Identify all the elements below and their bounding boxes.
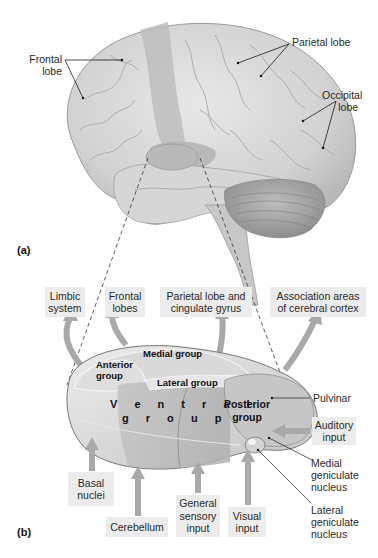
panel-a-label: (a) — [17, 244, 30, 256]
auditory-line2: input — [315, 431, 354, 444]
input-general-sensory: Generalsensoryinput — [176, 495, 220, 537]
auditory-line1: Auditory — [315, 419, 354, 432]
limbic-line2: system — [48, 302, 81, 315]
lgn-line1: Lateral — [311, 504, 359, 516]
pulvinar-label: Pulvinar — [313, 392, 351, 404]
output-frontal-lobes: Frontallobes — [105, 287, 145, 317]
lgn-line2: geniculate — [311, 516, 359, 528]
cerebellum-line1: Cerebellum — [110, 521, 164, 534]
general-line2: sensory — [179, 510, 216, 523]
anterior-line2: group — [96, 371, 133, 382]
occipital-lobe-line2: lobe — [322, 101, 362, 113]
output-limbic-system: Limbicsystem — [45, 287, 85, 317]
output-association-areas: Association areasof cerebral cortex — [270, 287, 366, 317]
association-line2: of cerebral cortex — [277, 302, 360, 315]
parietal-cingulate-line1: Parietal lobe and — [167, 290, 246, 303]
input-cerebellum: Cerebellum — [106, 517, 168, 537]
basal-line2: nuclei — [77, 489, 104, 502]
frontal-lobes-line1: Frontal — [109, 290, 142, 303]
association-line1: Association areas — [277, 290, 360, 303]
mgn-line3: nucleus — [311, 481, 359, 493]
posterior-line2: group — [217, 411, 277, 424]
occipital-lobe-line1: Occipital — [322, 89, 362, 101]
frontal-lobe-line2: lobe — [29, 65, 62, 77]
medial-geniculate-label: Medial geniculate nucleus — [311, 457, 359, 493]
general-line1: General — [179, 497, 216, 510]
frontal-lobes-line2: lobes — [109, 302, 142, 315]
medial-group-label: Medial group — [143, 348, 202, 359]
lateral-group-label: Lateral group — [157, 377, 218, 388]
visual-line2: input — [233, 522, 261, 535]
anterior-group-label: Anterior group — [96, 360, 133, 381]
lateral-geniculate-label: Lateral geniculate nucleus — [311, 504, 359, 540]
input-basal-nuclei: Basalnuclei — [68, 472, 114, 506]
frontal-lobe-label: Frontal lobe — [29, 53, 62, 77]
frontal-lobe-line1: Frontal — [29, 53, 62, 65]
general-line3: input — [179, 522, 216, 535]
mgn-line2: geniculate — [311, 469, 359, 481]
lgn-line3: nucleus — [311, 528, 359, 540]
parietal-cingulate-line2: cingulate gyrus — [167, 302, 246, 315]
basal-line1: Basal — [77, 477, 104, 490]
output-parietal-cingulate: Parietal lobe andcingulate gyrus — [160, 287, 252, 317]
mgn-line1: Medial — [311, 457, 359, 469]
occipital-lobe-label: Occipital lobe — [322, 89, 362, 113]
auditory-input-box: Auditoryinput — [312, 417, 356, 445]
posterior-group-label: Posterior group — [217, 398, 277, 424]
limbic-line1: Limbic — [48, 290, 81, 303]
panel-b-label: (b) — [17, 526, 31, 538]
anterior-line1: Anterior — [96, 360, 133, 371]
visual-line1: Visual — [233, 510, 261, 523]
posterior-line1: Posterior — [217, 398, 277, 411]
input-visual: Visualinput — [228, 507, 266, 537]
parietal-lobe-label: Parietal lobe — [292, 36, 350, 48]
